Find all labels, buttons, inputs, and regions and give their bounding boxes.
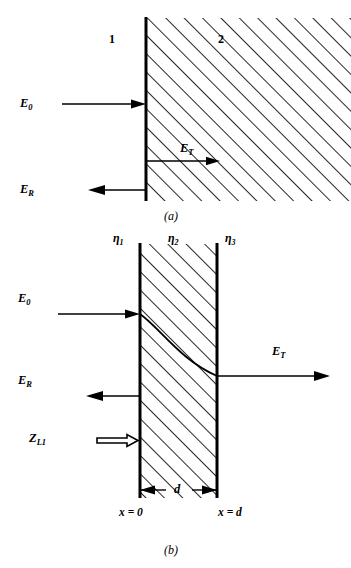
eta1-symbol: η [113,231,120,245]
panel-b: η1 η2 η3 E0 ET ER ZL1 d x = 0 x = d (b) [0,224,351,568]
load-impedance-subscript: L1 [37,437,46,447]
panel-b-caption: (b) [164,544,178,556]
load-impedance-arrow [97,435,138,447]
panel-a: 1 2 E0 ET ER (a) [0,0,351,232]
eta2-subscript: 2 [175,238,179,247]
incident-field-label-a: E0 [20,97,33,110]
transmitted-field-label-a: ET [180,142,194,155]
reflected-field-label-a: ER [20,183,34,196]
eta2-symbol: η [168,231,175,245]
eta3-label: η3 [225,232,236,244]
incident-field-subscript-b: 0 [26,297,30,307]
eta2-label: η2 [168,232,179,244]
transmitted-field-subscript-b: T [280,350,285,360]
thickness-label: d [174,483,180,496]
incident-wave-arrow [62,100,146,109]
reflected-field-subscript-a: R [28,188,34,198]
panel-a-graphics [0,0,351,232]
incident-field-subscript-a: 0 [28,102,32,112]
eta3-symbol: η [225,231,232,245]
transmitted-wave-arrow-b [217,371,330,381]
transmitted-field-subscript-a: T [188,147,193,157]
transmitted-field-label-b: ET [272,345,286,358]
reflected-wave-arrow [88,185,146,195]
load-impedance-label: ZL1 [29,432,46,445]
region-1-label: 1 [109,33,115,45]
x-zero-label: x = 0 [119,507,143,519]
x-d-label: x = d [218,507,242,519]
reflected-field-subscript-b: R [26,379,32,389]
incident-wave-arrow-b [58,310,140,319]
panel-a-caption: (a) [164,210,178,222]
eta1-subscript: 1 [120,238,124,247]
panel-b-graphics [0,224,351,568]
medium-2-hatching [146,18,351,201]
reflected-field-label-b: ER [18,374,32,387]
reflected-wave-arrow-b [86,391,140,401]
load-impedance-symbol: Z [29,431,37,445]
incident-field-label-b: E0 [18,292,31,305]
region-2-label: 2 [218,33,224,45]
eta1-label: η1 [113,232,124,244]
figure-container: 1 2 E0 ET ER (a) [0,0,351,568]
eta3-subscript: 3 [232,238,236,247]
